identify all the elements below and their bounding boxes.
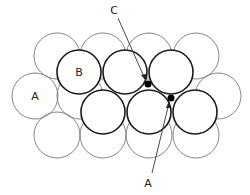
label-layer-a: A <box>31 90 39 103</box>
sphere-layer-b <box>81 90 125 134</box>
sphere-layer-b <box>127 90 171 134</box>
sphere-layer-b <box>173 90 217 134</box>
sphere-layer-b <box>149 50 193 94</box>
void-dot <box>168 95 175 102</box>
label-void-c: C <box>110 4 118 17</box>
label-layer-b: B <box>75 66 83 79</box>
void-dot <box>145 81 152 88</box>
sphere-layer-a <box>34 112 80 158</box>
layer-b-spheres <box>57 50 217 134</box>
sphere-layer-b <box>103 50 147 94</box>
label-void-a: A <box>144 177 152 190</box>
close-packing-diagram: A B C A <box>0 0 250 195</box>
